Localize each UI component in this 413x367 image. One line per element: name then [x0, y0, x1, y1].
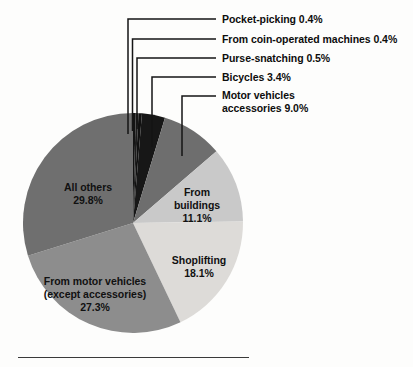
callout-label-motor-vehicles-line1: Motor vehicles [222, 89, 308, 102]
callout-label-purse-snatching: Purse-snatching 0.5% [222, 52, 330, 65]
slice-label-from-buildings-name1: From [159, 186, 235, 199]
callout-label-bicycles: Bicycles 3.4% [222, 71, 291, 84]
callout-label-pocket-picking: Pocket-picking 0.4% [222, 13, 323, 26]
slice-label-from-buildings-value: 11.1% [159, 212, 235, 225]
callout-label-motor-vehicles-line2: accessories 9.0% [222, 102, 308, 115]
callout-label-motor-vehicles-accessories: Motor vehicles accessories 9.0% [222, 89, 308, 114]
callout-label-coin-operated-machines: From coin-operated machines 0.4% [222, 33, 397, 46]
slice-label-from-buildings: From buildings 11.1% [159, 186, 235, 225]
slice-label-all-others-value: 29.8% [36, 194, 140, 207]
slice-label-all-others: All others 29.8% [36, 181, 140, 207]
slice-label-from-motor-vehicles-name2: (except accessories) [24, 288, 166, 301]
slice-label-from-motor-vehicles: From motor vehicles (except accessories)… [24, 275, 166, 314]
slice-label-from-motor-vehicles-name1: From motor vehicles [24, 275, 166, 288]
pie-chart-figure: Pocket-picking 0.4% From coin-operated m… [0, 0, 413, 367]
slice-label-from-motor-vehicles-value: 27.3% [24, 301, 166, 314]
slice-label-all-others-name: All others [36, 181, 140, 194]
slice-label-from-buildings-name2: buildings [159, 199, 235, 212]
slice-label-shoplifting-name: Shoplifting [150, 254, 248, 267]
